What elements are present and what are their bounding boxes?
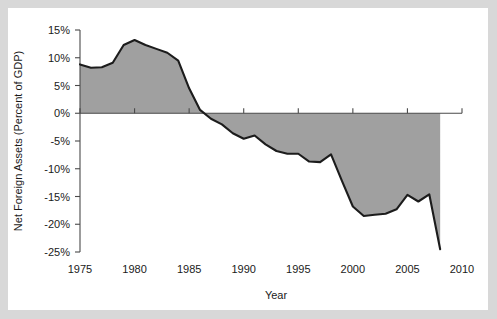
x-tick-label: 2005 bbox=[395, 263, 419, 275]
y-axis-tick-labels: 15%10%5%0%-5%-10%-15%-20%-25% bbox=[44, 24, 70, 258]
x-tick-label: 2010 bbox=[450, 263, 474, 275]
y-tick-label: -20% bbox=[44, 218, 70, 230]
y-tick-label: 15% bbox=[48, 24, 70, 36]
y-tick-label: -5% bbox=[50, 135, 70, 147]
x-tick-label: 1980 bbox=[122, 263, 146, 275]
x-tick-label: 1975 bbox=[68, 263, 92, 275]
figure-root: 15%10%5%0%-5%-10%-15%-20%-25% 1975198019… bbox=[0, 0, 497, 319]
y-tick-label: 0% bbox=[54, 107, 70, 119]
y-axis-title: Net Foreign Assets (Percent of GDP) bbox=[12, 51, 24, 231]
y-tick-label: 5% bbox=[54, 80, 70, 92]
x-axis-title: Year bbox=[265, 289, 288, 301]
series-area-fill bbox=[80, 40, 440, 249]
y-axis-tick-marks bbox=[75, 30, 80, 252]
x-tick-label: 1985 bbox=[177, 263, 201, 275]
x-axis-tick-labels: 19751980198519901995200020052010 bbox=[68, 263, 474, 275]
x-tick-label: 1995 bbox=[286, 263, 310, 275]
x-tick-label: 1990 bbox=[231, 263, 255, 275]
y-tick-label: -25% bbox=[44, 246, 70, 258]
chart-plot-area: 15%10%5%0%-5%-10%-15%-20%-25% 1975198019… bbox=[0, 0, 497, 319]
x-tick-label: 2000 bbox=[341, 263, 365, 275]
y-tick-label: -10% bbox=[44, 163, 70, 175]
y-tick-label: -15% bbox=[44, 191, 70, 203]
series-area-group bbox=[80, 40, 440, 249]
y-tick-label: 10% bbox=[48, 52, 70, 64]
